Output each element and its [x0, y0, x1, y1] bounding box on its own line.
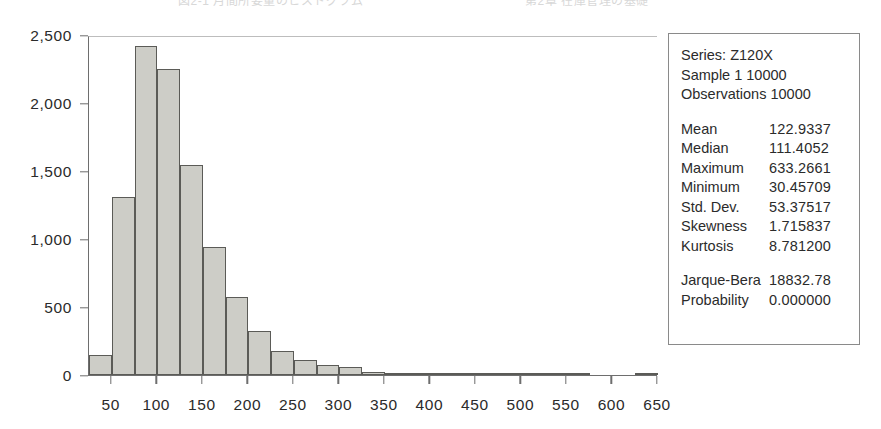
histogram-bar — [453, 373, 476, 375]
sample-range: Sample 1 10000 — [681, 66, 859, 86]
x-tick-mark — [201, 376, 202, 384]
histogram-bar — [180, 165, 203, 375]
stat-label: Skewness — [681, 217, 769, 237]
plot-area — [88, 36, 657, 376]
y-tick-mark — [80, 171, 88, 172]
x-tick-mark — [292, 376, 293, 384]
x-tick-label: 650 — [643, 396, 671, 414]
x-tick-label: 350 — [370, 396, 398, 414]
histogram-bar — [112, 197, 135, 375]
stat-value: 53.37517 — [769, 198, 859, 218]
histogram-bar — [339, 367, 362, 375]
histogram-bar — [317, 365, 340, 375]
stat-row: Probability0.000000 — [681, 291, 859, 311]
stat-row: Mean122.9337 — [681, 120, 859, 140]
x-tick-label: 450 — [461, 396, 489, 414]
histogram-bar — [203, 247, 226, 375]
stat-row: Kurtosis8.781200 — [681, 237, 859, 257]
histogram-bar — [157, 69, 180, 375]
stat-value: 30.45709 — [769, 178, 859, 198]
x-axis: 50100150200250300350400450500550600650 — [0, 376, 881, 429]
x-tick-label: 550 — [552, 396, 580, 414]
observations-count: Observations 10000 — [681, 85, 859, 105]
y-tick-label: 500 — [44, 299, 72, 317]
stat-label: Mean — [681, 120, 769, 140]
x-tick-mark — [474, 376, 475, 384]
x-tick-label: 500 — [507, 396, 535, 414]
statistics-box: Series: Z120X Sample 1 10000 Observation… — [668, 33, 860, 345]
x-tick-label: 200 — [233, 396, 261, 414]
stat-row: Maximum633.2661 — [681, 159, 859, 179]
histogram-bar — [499, 373, 522, 375]
x-tick-mark — [611, 376, 612, 384]
y-tick-label: 2,000 — [30, 95, 72, 113]
y-tick-label: 1,000 — [30, 231, 72, 249]
stat-value: 0.000000 — [769, 291, 859, 311]
histogram-bar — [476, 373, 499, 375]
x-tick-mark — [338, 376, 339, 384]
stat-label: Median — [681, 139, 769, 159]
histogram-bar — [248, 331, 271, 375]
stat-label: Kurtosis — [681, 237, 769, 257]
x-tick-label: 100 — [142, 396, 170, 414]
stat-row: Jarque-Bera18832.78 — [681, 271, 859, 291]
y-tick-mark — [80, 307, 88, 308]
stat-value: 633.2661 — [769, 159, 859, 179]
stat-value: 111.4052 — [769, 139, 859, 159]
histogram-bar — [521, 373, 544, 375]
stat-value: 1.715837 — [769, 217, 859, 237]
stat-row: Median111.4052 — [681, 139, 859, 159]
stat-label: Probability — [681, 291, 769, 311]
y-tick-mark — [80, 103, 88, 104]
x-tick-mark — [565, 376, 566, 384]
histogram-bars — [89, 37, 657, 375]
descriptive-stats-list: Mean122.9337Median111.4052Maximum633.266… — [681, 120, 859, 257]
x-tick-mark — [247, 376, 248, 384]
y-tick-mark — [80, 35, 88, 36]
stat-value: 18832.78 — [769, 271, 859, 291]
x-tick-label: 250 — [279, 396, 307, 414]
stats-spacer-1 — [681, 105, 859, 120]
stat-row: Skewness1.715837 — [681, 217, 859, 237]
x-tick-mark — [429, 376, 430, 384]
histogram-bar — [635, 373, 658, 375]
histogram-bar — [89, 355, 112, 375]
x-tick-label: 400 — [416, 396, 444, 414]
x-tick-mark — [383, 376, 384, 384]
histogram-bar — [135, 46, 158, 375]
series-name: Series: Z120X — [681, 46, 859, 66]
stat-label: Minimum — [681, 178, 769, 198]
x-tick-mark — [520, 376, 521, 384]
x-tick-label: 50 — [102, 396, 120, 414]
histogram-bar — [430, 373, 453, 375]
y-tick-label: 1,500 — [30, 163, 72, 181]
stat-label: Std. Dev. — [681, 198, 769, 218]
y-tick-mark — [80, 239, 88, 240]
histogram-figure: 05001,0001,5002,0002,500 501001502002503… — [0, 0, 881, 429]
x-tick-label: 300 — [325, 396, 353, 414]
stat-value: 8.781200 — [769, 237, 859, 257]
x-tick-label: 600 — [598, 396, 626, 414]
stat-label: Jarque-Bera — [681, 271, 769, 291]
stats-spacer-2 — [681, 256, 859, 271]
y-axis: 05001,0001,5002,0002,500 — [0, 0, 88, 429]
histogram-bar — [294, 360, 317, 375]
stat-row: Std. Dev.53.37517 — [681, 198, 859, 218]
histogram-bar — [271, 351, 294, 375]
histogram-bar — [544, 373, 567, 375]
stat-value: 122.9337 — [769, 120, 859, 140]
x-tick-label: 150 — [188, 396, 216, 414]
stat-row: Minimum30.45709 — [681, 178, 859, 198]
histogram-bar — [567, 373, 590, 375]
x-tick-mark — [110, 376, 111, 384]
histogram-bar — [226, 297, 249, 375]
histogram-bar — [362, 372, 385, 375]
x-tick-mark — [156, 376, 157, 384]
stat-label: Maximum — [681, 159, 769, 179]
histogram-bar — [385, 373, 408, 375]
histogram-bar — [408, 373, 431, 375]
x-tick-mark — [656, 376, 657, 384]
y-tick-label: 2,500 — [30, 27, 72, 45]
normality-test-list: Jarque-Bera18832.78Probability0.000000 — [681, 271, 859, 310]
